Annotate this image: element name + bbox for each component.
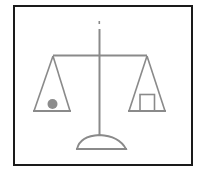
balance-scale <box>0 0 197 172</box>
right-pan <box>128 56 166 111</box>
ball-weight <box>48 99 58 109</box>
scale-base <box>77 135 126 149</box>
square-weight <box>140 95 155 112</box>
pivot-dot <box>99 21 101 24</box>
